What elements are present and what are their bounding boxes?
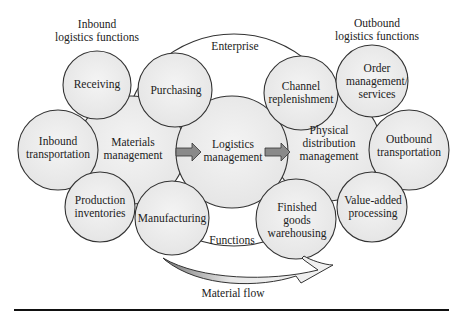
outbound-header-line2: logistics functions [335, 30, 419, 43]
node-label: Manufacturing [138, 212, 206, 225]
node-production-inventories: Production inventories [74, 194, 125, 220]
inbound-header: Inbound logistics functions [55, 18, 139, 44]
inbound-header-line1: Inbound [55, 18, 139, 31]
node-label: management/ [346, 75, 408, 88]
node-outbound-transportation: Outbound transportation [377, 133, 441, 159]
node-order-management: Order management/ services [346, 62, 408, 101]
node-finished-goods: Finished goods warehousing [268, 201, 327, 240]
node-label: processing [344, 207, 401, 220]
node-label: transportation [26, 148, 90, 161]
node-channel-replenishment: Channel replenishment [268, 80, 333, 106]
functions-label: Functions [209, 234, 254, 247]
node-label: Channel [268, 80, 333, 93]
node-purchasing: Purchasing [150, 84, 201, 97]
enterprise-label: Enterprise [211, 40, 258, 53]
node-materials-management: Materials management [104, 136, 163, 162]
node-label: management [204, 151, 263, 164]
node-label: transportation [377, 146, 441, 159]
node-label: Finished [268, 201, 327, 214]
node-label: Materials [104, 136, 163, 149]
node-manufacturing: Manufacturing [138, 212, 206, 225]
node-label: inventories [74, 207, 125, 220]
node-value-added: Value-added processing [344, 194, 401, 220]
node-label: Order [346, 62, 408, 75]
outbound-header-line1: Outbound [335, 17, 419, 30]
node-receiving: Receiving [74, 78, 121, 91]
node-label: Logistics [204, 138, 263, 151]
node-physical-distribution: Physical distribution management [300, 124, 359, 163]
node-label: replenishment [268, 93, 333, 106]
node-label: management [104, 149, 163, 162]
node-label: management [300, 150, 359, 163]
node-label: services [346, 88, 408, 101]
material-flow-label: Material flow [202, 287, 265, 300]
node-label: Receiving [74, 78, 121, 91]
node-label: Purchasing [150, 84, 201, 97]
outbound-header: Outbound logistics functions [335, 17, 419, 43]
node-logistics-management: Logistics management [204, 138, 263, 164]
material-flow-arrow-icon [163, 256, 333, 284]
node-label: distribution [300, 137, 359, 150]
node-label: Value-added [344, 194, 401, 207]
node-label: Outbound [377, 133, 441, 146]
inbound-header-line2: logistics functions [55, 31, 139, 44]
node-inbound-transportation: Inbound transportation [26, 135, 90, 161]
node-label: Production [74, 194, 125, 207]
node-label: goods [268, 214, 327, 227]
node-label: warehousing [268, 227, 327, 240]
node-label: Inbound [26, 135, 90, 148]
node-label: Physical [300, 124, 359, 137]
